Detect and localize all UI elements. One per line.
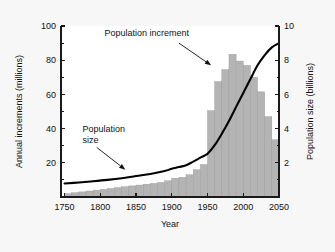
bar bbox=[272, 140, 279, 197]
bar bbox=[143, 184, 150, 197]
y2-axis-title: Population size (billions) bbox=[305, 63, 315, 160]
population-increment-label: Population increment bbox=[104, 28, 189, 38]
bar bbox=[186, 175, 193, 197]
x-axis-tick-label: 1750 bbox=[55, 202, 75, 212]
x-axis-tick-label: 2000 bbox=[233, 202, 253, 212]
bar bbox=[236, 61, 243, 197]
bar bbox=[165, 181, 172, 197]
bar bbox=[157, 182, 164, 197]
population-increment-chart: 2040608010024681017501800185019001950200… bbox=[0, 0, 335, 252]
bar bbox=[150, 183, 157, 197]
x-axis-tick-label: 1850 bbox=[126, 202, 146, 212]
bar bbox=[115, 188, 122, 197]
x-axis-tick-label: 1950 bbox=[198, 202, 218, 212]
bar bbox=[129, 186, 136, 197]
bar bbox=[72, 193, 79, 197]
y2-axis-tick-label: 6 bbox=[284, 90, 289, 100]
bar bbox=[100, 189, 107, 197]
figure-container: 2040608010024681017501800185019001950200… bbox=[0, 0, 335, 252]
bar bbox=[79, 192, 86, 197]
population-size-label-line2: size bbox=[82, 135, 98, 145]
y-axis-tick-label: 40 bbox=[46, 124, 56, 134]
y2-axis-tick-label: 10 bbox=[284, 21, 294, 31]
bar bbox=[122, 187, 129, 197]
x-axis-title: Year bbox=[161, 219, 179, 229]
y-axis-tick-label: 20 bbox=[46, 158, 56, 168]
y-axis-tick-label: 100 bbox=[41, 21, 56, 31]
x-axis-tick-label: 1800 bbox=[90, 202, 110, 212]
bar bbox=[86, 191, 93, 197]
y-axis-tick-label: 80 bbox=[46, 55, 56, 65]
bar bbox=[265, 117, 272, 197]
bar bbox=[179, 177, 186, 197]
y2-axis-tick-label: 8 bbox=[284, 55, 289, 65]
bar bbox=[93, 190, 100, 197]
bar bbox=[258, 92, 265, 197]
bar bbox=[200, 165, 207, 197]
bar bbox=[229, 54, 236, 197]
y-axis-tick-label: 60 bbox=[46, 90, 56, 100]
bar bbox=[250, 77, 257, 197]
bar bbox=[172, 178, 179, 197]
y-axis-title: Annual increments (millions) bbox=[14, 55, 24, 168]
x-axis-tick-label: 2050 bbox=[269, 202, 289, 212]
bar bbox=[107, 188, 114, 197]
bar bbox=[193, 170, 200, 197]
x-axis-tick-label: 1900 bbox=[162, 202, 182, 212]
y2-axis-tick-label: 4 bbox=[284, 124, 289, 134]
bar bbox=[136, 185, 143, 197]
y2-axis-tick-label: 2 bbox=[284, 158, 289, 168]
population-size-label-line1: Population bbox=[82, 124, 125, 134]
